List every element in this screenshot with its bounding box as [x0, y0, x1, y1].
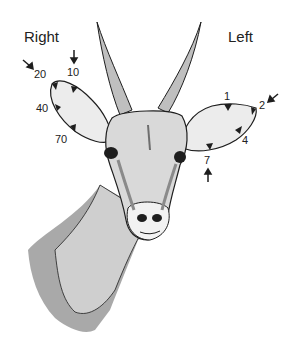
right-nostril	[152, 214, 162, 222]
arrow-right-20	[23, 60, 33, 69]
left-ear-label: Left	[228, 28, 253, 45]
left-ear-code: 4	[242, 134, 248, 146]
left-horn	[158, 22, 201, 113]
right-ear-code: 10	[67, 66, 79, 78]
left-eye	[174, 151, 186, 163]
right-horn	[97, 22, 132, 115]
left-nostril	[137, 214, 147, 222]
right-ear-code: 20	[34, 68, 46, 80]
arrow-right-10	[71, 50, 77, 63]
arrow-left-2	[268, 94, 278, 102]
left-ear-code: 7	[204, 154, 210, 166]
left-ear-code: 1	[224, 90, 230, 102]
right-ear-code: 40	[36, 102, 48, 114]
right-eye	[104, 147, 118, 159]
left-ear-code: 2	[259, 99, 265, 111]
arrow-left-7	[205, 169, 211, 182]
antelope-illustration	[0, 0, 294, 348]
right-ear-code: 70	[55, 133, 67, 145]
right-ear-label: Right	[24, 28, 59, 45]
